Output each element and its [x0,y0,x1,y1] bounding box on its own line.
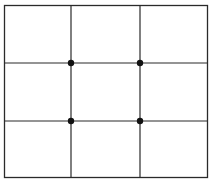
intersection-dot-bottom-left [68,118,74,124]
outer-frame [5,6,208,178]
intersection-dot-top-right [137,60,143,66]
intersection-dot-top-left [68,60,74,66]
intersection-dot-bottom-right [137,118,143,124]
rule-of-thirds-diagram [0,0,212,184]
